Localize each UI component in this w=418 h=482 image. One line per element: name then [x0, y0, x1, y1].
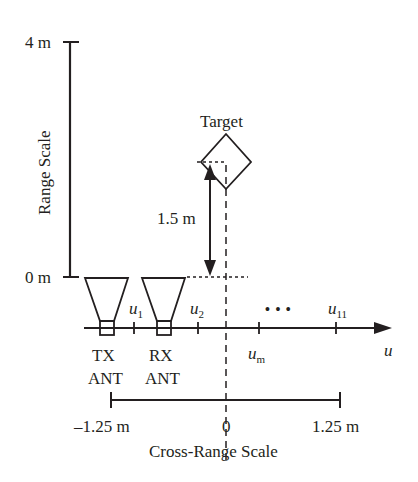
ellipsis: • • •: [265, 303, 292, 317]
diagram-canvas: [0, 0, 418, 482]
um-label: um: [248, 345, 265, 362]
cross-range-right-tick: 1.25 m: [312, 418, 359, 435]
cross-range-center-tick: 0: [222, 418, 231, 435]
cross-range-axis-label: Cross-Range Scale: [149, 443, 278, 460]
u1-label: u1: [129, 300, 143, 317]
rx-antenna-icon: [142, 278, 185, 335]
rx-label-line1: RX: [149, 347, 173, 364]
range-axis: [63, 42, 79, 277]
tx-antenna-icon: [85, 278, 128, 335]
u-axis-label: u: [384, 342, 393, 359]
distance-arrow: [204, 164, 216, 276]
u-axis: [84, 322, 392, 334]
u2-label: u2: [190, 300, 204, 317]
u11-label: u11: [328, 300, 347, 317]
range-bottom-tick-label: 0 m: [25, 269, 51, 286]
cross-range-left-tick: –1.25 m: [74, 418, 130, 435]
distance-label: 1.5 m: [157, 210, 196, 227]
tx-label-line1: TX: [92, 347, 115, 364]
range-top-tick-label: 4 m: [25, 34, 51, 51]
range-axis-label: Range Scale: [36, 131, 53, 216]
target-label: Target: [200, 113, 243, 130]
tx-label-line2: ANT: [88, 370, 123, 387]
rx-label-line2: ANT: [145, 370, 180, 387]
